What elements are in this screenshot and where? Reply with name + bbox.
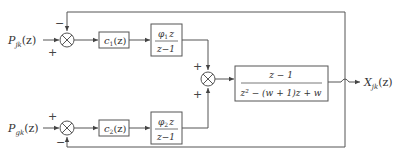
sign-bottom-left: + bbox=[48, 110, 57, 123]
block-phi2: φ2z z−1 bbox=[151, 112, 182, 144]
sign-middle-top: + bbox=[193, 60, 202, 73]
sign-top-left: + bbox=[48, 46, 57, 59]
output-wire bbox=[328, 79, 360, 82]
sign-middle-bottom: + bbox=[193, 88, 202, 101]
block-c1: c1(z) bbox=[99, 32, 129, 48]
sign-top-feedback: − bbox=[55, 17, 64, 30]
svg-text:c1(z): c1(z) bbox=[104, 35, 127, 47]
svg-text:z − 1: z − 1 bbox=[268, 70, 293, 80]
block-plant: z − 1 z² − (w + 1)z + w bbox=[235, 66, 328, 101]
summing-junction-middle bbox=[201, 72, 215, 86]
svg-text:z−1: z−1 bbox=[156, 44, 175, 54]
svg-text:z−1: z−1 bbox=[156, 132, 175, 142]
summing-junction-top bbox=[60, 33, 74, 47]
block-phi1: φ1z z−1 bbox=[151, 24, 182, 56]
block-diagram: Pjk(z) Pgk(z) + − + − c1(z) c2(z) φ1z bbox=[0, 0, 400, 159]
output-label: Xjk(z) bbox=[363, 76, 393, 91]
input-1-label: Pjk(z) bbox=[7, 34, 36, 49]
summing-junction-bottom bbox=[60, 121, 74, 135]
svg-text:z² − (w + 1)z + w: z² − (w + 1)z + w bbox=[239, 88, 321, 98]
input-2-label: Pgk(z) bbox=[7, 122, 39, 137]
block-c2: c2(z) bbox=[99, 120, 129, 136]
svg-text:c2(z): c2(z) bbox=[104, 123, 127, 135]
sign-bottom-feedback: − bbox=[56, 136, 65, 149]
